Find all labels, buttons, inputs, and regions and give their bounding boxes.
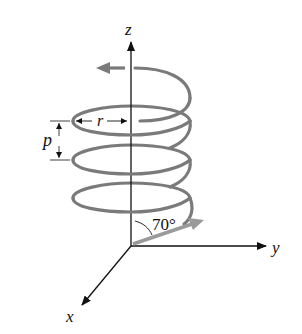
pitch-label: p [41, 130, 52, 150]
angle-label: 70° [152, 215, 176, 234]
pitch-annotation [50, 121, 70, 160]
helix-direction-arrow [96, 62, 125, 74]
radius-label: r [97, 112, 104, 129]
y-axis-label: y [270, 238, 280, 257]
helix-front [73, 98, 192, 224]
angle-arc [135, 221, 152, 235]
x-axis [82, 246, 131, 305]
x-axis-label: x [65, 307, 74, 326]
z-axis-label: z [124, 20, 132, 39]
helix-diagram: z y x r p 70° [0, 0, 302, 334]
